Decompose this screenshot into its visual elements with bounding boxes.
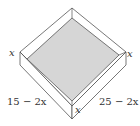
box-base [27, 18, 119, 101]
label-bottom-height: x [75, 104, 81, 115]
label-right-side: 25 − 2x [99, 96, 139, 107]
label-left-side: 15 − 2x [7, 96, 47, 107]
label-left-height: x [9, 47, 15, 58]
open-box-diagram: x x x 15 − 2x 25 − 2x [0, 0, 140, 126]
label-right-height: x [127, 48, 133, 59]
